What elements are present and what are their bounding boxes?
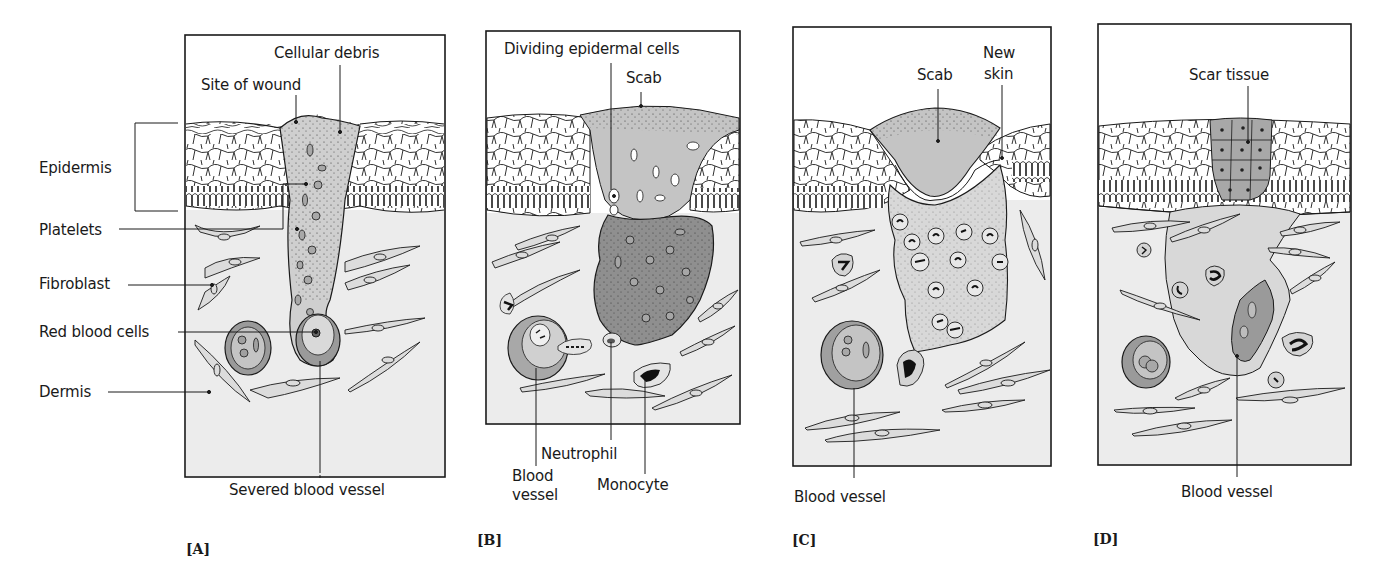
- label-site-of-wound: Site of wound: [201, 77, 301, 94]
- label-dermis: Dermis: [39, 384, 91, 401]
- label-cellular-debris: Cellular debris: [274, 45, 379, 62]
- label-severed-blood-vessel: Severed blood vessel: [229, 482, 385, 499]
- panel-label-b: [B]: [477, 532, 502, 548]
- panel-d-illustration: [1098, 24, 1351, 477]
- label-new-skin-line1: New: [983, 45, 1015, 62]
- panel-b-illustration: [486, 31, 740, 474]
- label-scar-tissue: Scar tissue: [1189, 67, 1269, 84]
- label-scab-c: Scab: [917, 67, 953, 84]
- label-new-skin-line2: skin: [984, 66, 1013, 83]
- label-blood-vessel-b-line2: vessel: [512, 487, 558, 504]
- label-dividing-epidermal-cells: Dividing epidermal cells: [504, 41, 679, 58]
- label-blood-vessel-b-line1: Blood: [512, 468, 553, 485]
- label-monocyte: Monocyte: [597, 477, 668, 494]
- panel-label-c: [C]: [792, 532, 816, 548]
- label-blood-vessel-d: Blood vessel: [1181, 484, 1273, 501]
- label-red-blood-cells: Red blood cells: [39, 324, 149, 341]
- label-neutrophil: Neutrophil: [541, 446, 617, 463]
- label-blood-vessel-c: Blood vessel: [794, 489, 886, 506]
- label-epidermis: Epidermis: [39, 160, 112, 177]
- label-fibroblast: Fibroblast: [39, 276, 110, 293]
- label-scab-b: Scab: [626, 70, 662, 87]
- panel-label-a: [A]: [186, 541, 210, 557]
- panel-c-illustration: [793, 27, 1051, 478]
- panel-label-d: [D]: [1093, 531, 1118, 547]
- panel-a-illustration: [108, 35, 445, 478]
- label-platelets: Platelets: [39, 222, 102, 239]
